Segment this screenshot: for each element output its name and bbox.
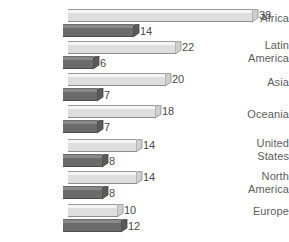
value-label-asia-dark: 7: [104, 89, 110, 102]
bar-front-face: [63, 223, 121, 232]
bar-africa-light[interactable]: [68, 9, 252, 22]
bar-front-face: [68, 13, 252, 22]
bar-oceania-dark[interactable]: [63, 120, 97, 133]
axis-label-europe: Europe: [227, 205, 289, 218]
bar-north-america-dark[interactable]: [63, 186, 102, 199]
value-label-latin-america-dark: 6: [100, 57, 106, 70]
value-label-oceania-light: 18: [162, 105, 174, 118]
bar-front-face: [68, 143, 136, 152]
bar-end-cap: [175, 41, 181, 54]
bar-europe-dark[interactable]: [63, 219, 121, 232]
bar-united-states-dark[interactable]: [63, 154, 102, 167]
value-label-united-states-dark: 8: [109, 155, 115, 168]
value-label-africa-light: 38: [259, 9, 271, 22]
value-label-latin-america-light: 22: [182, 41, 194, 54]
bar-front-face: [63, 124, 97, 133]
bar-end-cap: [133, 24, 139, 37]
bar-front-face: [63, 190, 102, 199]
bar-end-cap: [165, 73, 171, 86]
bar-asia-dark[interactable]: [63, 88, 97, 101]
bar-end-cap: [136, 171, 142, 184]
value-label-united-states-light: 14: [143, 139, 155, 152]
value-label-europe-dark: 12: [128, 220, 140, 233]
axis-label-latin-america: Latin America: [227, 39, 289, 64]
axis-label-oceania: Oceania: [227, 108, 289, 121]
bar-end-cap: [102, 186, 108, 199]
bar-end-cap: [155, 105, 161, 118]
axis-label-asia: Asia: [227, 76, 289, 89]
bar-latin-america-light[interactable]: [68, 41, 175, 54]
bar-front-face: [68, 77, 165, 86]
bar-front-face: [63, 60, 93, 69]
bar-latin-america-dark[interactable]: [63, 56, 93, 69]
bar-oceania-light[interactable]: [68, 105, 155, 118]
bar-end-cap: [121, 219, 127, 232]
bar-end-cap: [117, 204, 123, 217]
bar-front-face: [68, 109, 155, 118]
bar-front-face: [68, 208, 117, 217]
bar-end-cap: [252, 9, 258, 22]
value-label-north-america-dark: 8: [109, 187, 115, 200]
bar-front-face: [68, 175, 136, 184]
value-label-asia-light: 20: [172, 73, 184, 86]
bar-end-cap: [93, 56, 99, 69]
bar-europe-light[interactable]: [68, 204, 117, 217]
bar-end-cap: [97, 120, 103, 133]
bar-chart: Africa Latin America Asia Oceania United…: [0, 0, 289, 242]
value-label-africa-dark: 14: [140, 25, 152, 38]
bar-north-america-light[interactable]: [68, 171, 136, 184]
bar-front-face: [63, 28, 133, 37]
bar-asia-light[interactable]: [68, 73, 165, 86]
value-label-europe-light: 10: [124, 204, 136, 217]
bar-front-face: [68, 45, 175, 54]
bar-end-cap: [136, 139, 142, 152]
bar-africa-dark[interactable]: [63, 24, 133, 37]
bar-end-cap: [97, 88, 103, 101]
bar-united-states-light[interactable]: [68, 139, 136, 152]
bar-end-cap: [102, 154, 108, 167]
bar-front-face: [63, 92, 97, 101]
bar-front-face: [63, 158, 102, 167]
value-label-oceania-dark: 7: [104, 121, 110, 134]
axis-label-united-states: United States: [227, 137, 289, 162]
value-label-north-america-light: 14: [143, 171, 155, 184]
axis-label-north-america: North America: [227, 170, 289, 195]
